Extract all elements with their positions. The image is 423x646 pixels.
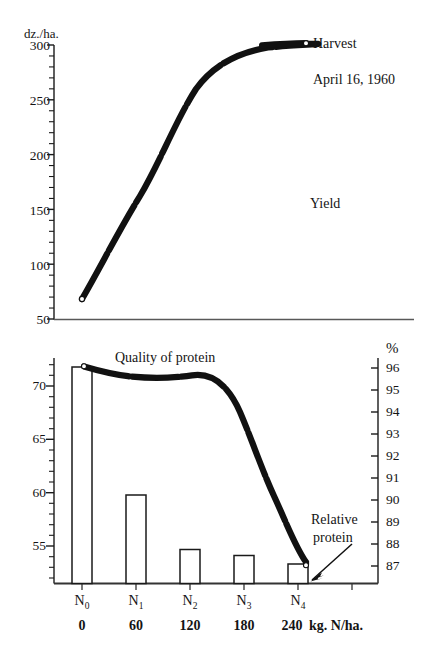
xval-180: 180 — [224, 618, 264, 634]
bottom-chart-label-relative-protein-line2: protein — [313, 530, 353, 546]
bottom-chart-right-ticks — [371, 368, 378, 566]
xval-120: 120 — [170, 618, 210, 634]
xcat-n4: N4 — [278, 593, 318, 611]
xval-240: 240 — [272, 618, 312, 634]
figure-container: dz./ha. 300 250 200 150 100 50 — [0, 0, 423, 646]
bottom-chart-axis-lines — [54, 358, 378, 584]
bar-n3 — [234, 556, 254, 584]
relative-protein-leader-arrow — [311, 544, 353, 582]
xcat-n0: N0 — [62, 593, 102, 611]
xcat-n1-subscript: 1 — [139, 601, 144, 611]
bottom-chart-bars — [72, 367, 308, 584]
xcat-n3: N3 — [224, 593, 264, 611]
bottom-chart-label-quality-of-protein: Quality of protein — [115, 350, 215, 366]
x-axis-units-label: kg. N/ha. — [309, 618, 363, 634]
bottom-chart-quality-curve — [82, 364, 309, 568]
xcat-n0-letter: N — [75, 593, 85, 608]
xcat-n3-subscript: 3 — [247, 601, 252, 611]
bottom-chart-plot-svg — [0, 0, 423, 646]
bar-n1 — [126, 495, 146, 584]
bottom-chart-left-major-ticks — [46, 386, 54, 546]
xcat-n2-subscript: 2 — [193, 601, 198, 611]
xcat-n4-letter: N — [291, 593, 301, 608]
bar-n0 — [72, 367, 92, 584]
bottom-chart-label-relative-protein-line1: Relative — [311, 512, 358, 528]
xcat-n2-letter: N — [183, 593, 193, 608]
xcat-n3-letter: N — [237, 593, 247, 608]
xcat-n0-subscript: 0 — [85, 601, 90, 611]
xval-0: 0 — [62, 618, 102, 634]
xcat-n1: N1 — [116, 593, 156, 611]
xval-60: 60 — [116, 618, 156, 634]
xcat-n1-letter: N — [129, 593, 139, 608]
xcat-n4-subscript: 4 — [301, 601, 306, 611]
bar-n2 — [180, 550, 200, 584]
xcat-n2: N2 — [170, 593, 210, 611]
